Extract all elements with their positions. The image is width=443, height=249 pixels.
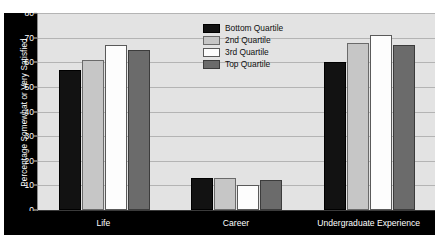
y-axis-tick-70: 70 bbox=[12, 33, 34, 42]
legend-item: Bottom Quartile bbox=[203, 23, 283, 34]
bar bbox=[347, 43, 369, 210]
legend-swatch-icon bbox=[203, 36, 220, 45]
legend-item-label: Bottom Quartile bbox=[225, 24, 283, 33]
legend-item: Top Quartile bbox=[203, 59, 283, 70]
bar-group bbox=[303, 12, 436, 210]
legend-swatch-icon bbox=[203, 60, 220, 69]
legend-item-label: 3rd Quartile bbox=[225, 48, 269, 57]
y-axis-tick-50: 50 bbox=[12, 82, 34, 91]
x-axis-label-band: LifeCareerUndergraduate Experience bbox=[4, 211, 435, 235]
bar-chart: Percentage Somewhat or Very Satisfied 01… bbox=[4, 13, 435, 235]
legend-item: 3rd Quartile bbox=[203, 47, 283, 58]
chart-legend: Bottom Quartile2nd Quartile3rd QuartileT… bbox=[200, 21, 286, 73]
x-axis-label-2: Career bbox=[223, 218, 249, 228]
bar bbox=[105, 45, 127, 210]
legend-item: 2nd Quartile bbox=[203, 35, 283, 46]
bar bbox=[191, 178, 213, 210]
bar bbox=[59, 70, 81, 210]
bar bbox=[214, 178, 236, 210]
bar bbox=[237, 185, 259, 210]
legend-item-label: 2nd Quartile bbox=[225, 36, 271, 45]
x-axis-label-1: Life bbox=[96, 218, 110, 228]
legend-swatch-icon bbox=[203, 24, 220, 33]
y-axis-tick-40: 40 bbox=[12, 107, 34, 116]
bar bbox=[260, 180, 282, 210]
y-axis-tick-80: 80 bbox=[12, 9, 34, 18]
y-axis-tick-10: 10 bbox=[12, 181, 34, 190]
legend-swatch-icon bbox=[203, 48, 220, 57]
y-axis-tick-labels: 01020304050607080 bbox=[12, 13, 37, 211]
y-axis-tick-20: 20 bbox=[12, 156, 34, 165]
bar bbox=[370, 35, 392, 210]
bar bbox=[393, 45, 415, 210]
bar bbox=[128, 50, 150, 210]
bar bbox=[324, 62, 346, 210]
y-axis-tick-30: 30 bbox=[12, 132, 34, 141]
bar-group bbox=[38, 12, 171, 210]
x-axis-label-3: Undergraduate Experience bbox=[317, 218, 420, 228]
legend-item-label: Top Quartile bbox=[225, 60, 270, 69]
y-axis-tick-60: 60 bbox=[12, 58, 34, 67]
bar bbox=[82, 60, 104, 210]
